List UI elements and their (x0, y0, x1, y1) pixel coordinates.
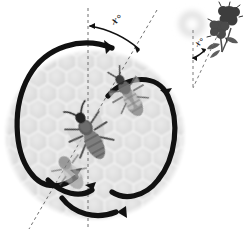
flower-icon (207, 2, 243, 58)
field-scene-layer (0, 0, 243, 237)
sun-icon (177, 9, 207, 39)
waggle-dance-figure: x° x° (0, 0, 243, 237)
